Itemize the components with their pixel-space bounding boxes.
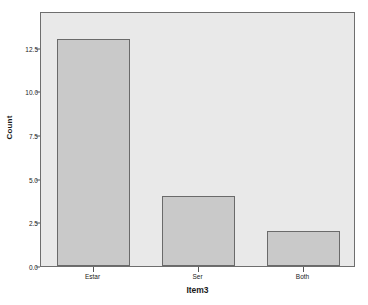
- x-axis-tick-label: Both: [296, 273, 309, 280]
- y-axis-tick-mark: [36, 179, 40, 180]
- x-axis-tick-label: Ser: [192, 273, 202, 280]
- bar: [267, 231, 341, 266]
- x-axis-title: Item3: [40, 285, 355, 295]
- plot-area: [40, 12, 355, 267]
- bars-layer: [41, 13, 354, 266]
- x-axis-tick-mark: [303, 267, 304, 272]
- bar-chart: Count 0.02.55.07.510.012.5 EstarSerBoth …: [0, 0, 368, 305]
- bar: [57, 39, 131, 266]
- y-axis-tick-mark: [36, 136, 40, 137]
- y-axis-tick-mark: [36, 48, 40, 49]
- bar: [162, 196, 236, 266]
- y-axis-tick-mark: [36, 223, 40, 224]
- y-axis-tick-mark: [36, 92, 40, 93]
- x-axis-title-label: Item3: [186, 285, 208, 295]
- y-axis-title-label: Count: [5, 115, 14, 139]
- x-axis-tick-mark: [198, 267, 199, 272]
- x-axis-tick-label: Estar: [85, 273, 100, 280]
- y-axis-tick-mark: [36, 267, 40, 268]
- y-axis-tick-labels: 0.02.55.07.510.012.5: [14, 0, 38, 305]
- x-axis-tick-mark: [93, 267, 94, 272]
